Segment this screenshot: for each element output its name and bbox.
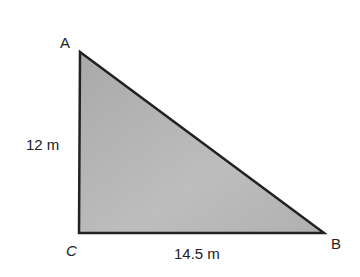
vertex-label-a: A [60,34,70,51]
triangle-abc [79,52,324,233]
vertex-label-c: C [66,242,77,259]
side-label-cb: 14.5 m [174,245,220,262]
vertex-label-b: B [331,235,341,252]
side-label-ac: 12 m [26,136,59,153]
